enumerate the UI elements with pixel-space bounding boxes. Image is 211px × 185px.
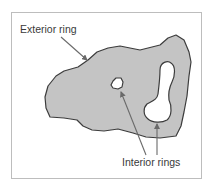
interior-rings-label: Interior rings	[122, 156, 180, 168]
polygon-rings-diagram: Exterior ring Interior rings	[0, 0, 211, 185]
exterior-ring-label: Exterior ring	[20, 23, 77, 35]
